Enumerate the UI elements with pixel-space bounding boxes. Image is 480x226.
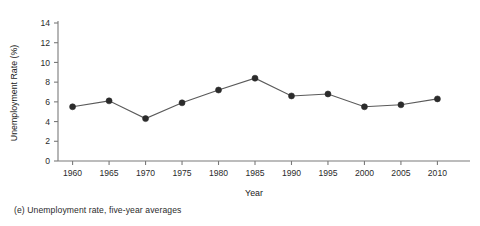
data-point-marker: [70, 104, 76, 110]
x-tick-label: 1975: [172, 168, 191, 178]
x-axis-tick-marks: [73, 161, 438, 165]
data-point-marker: [179, 100, 185, 106]
y-tick-label: 10: [40, 58, 50, 68]
x-tick-label: 2010: [428, 168, 447, 178]
data-point-marker: [252, 75, 258, 81]
x-tick-label: 1995: [318, 168, 337, 178]
figure-panel: 02468101214 1960196519701975198019851990…: [0, 0, 480, 226]
y-tick-label: 6: [45, 97, 50, 107]
data-point-marker: [325, 91, 331, 97]
data-point-marker: [434, 96, 440, 102]
data-point-markers: [70, 75, 441, 121]
y-tick-label: 12: [40, 38, 50, 48]
data-point-marker: [398, 102, 404, 108]
data-point-marker: [106, 98, 112, 104]
x-tick-label: 1980: [209, 168, 228, 178]
y-axis-tick-marks: [54, 23, 58, 161]
data-point-marker: [361, 104, 367, 110]
x-tick-label: 1960: [63, 168, 82, 178]
data-point-marker: [143, 116, 149, 122]
data-point-marker: [288, 93, 294, 99]
x-tick-label: 1965: [100, 168, 119, 178]
series-polyline: [73, 78, 438, 118]
x-axis-title: Year: [245, 188, 263, 198]
data-point-marker: [216, 87, 222, 93]
x-tick-label: 1990: [282, 168, 301, 178]
y-tick-label: 14: [40, 18, 50, 28]
y-tick-label: 8: [45, 77, 50, 87]
y-tick-label: 4: [45, 117, 50, 127]
y-axis-tick-labels: 02468101214: [40, 18, 50, 166]
x-tick-label: 2000: [355, 168, 374, 178]
x-tick-label: 1970: [136, 168, 155, 178]
unemployment-rate-line-chart: 02468101214 1960196519701975198019851990…: [0, 0, 480, 226]
y-tick-label: 2: [45, 136, 50, 146]
x-tick-label: 1985: [245, 168, 264, 178]
x-tick-label: 2005: [391, 168, 410, 178]
y-tick-label: 0: [45, 156, 50, 166]
y-axis-title: Unemployment Rate (%): [9, 45, 19, 141]
x-axis-tick-labels: 1960196519701975198019851990199520002005…: [63, 168, 447, 178]
figure-caption: (e) Unemployment rate, five-year average…: [14, 205, 181, 215]
